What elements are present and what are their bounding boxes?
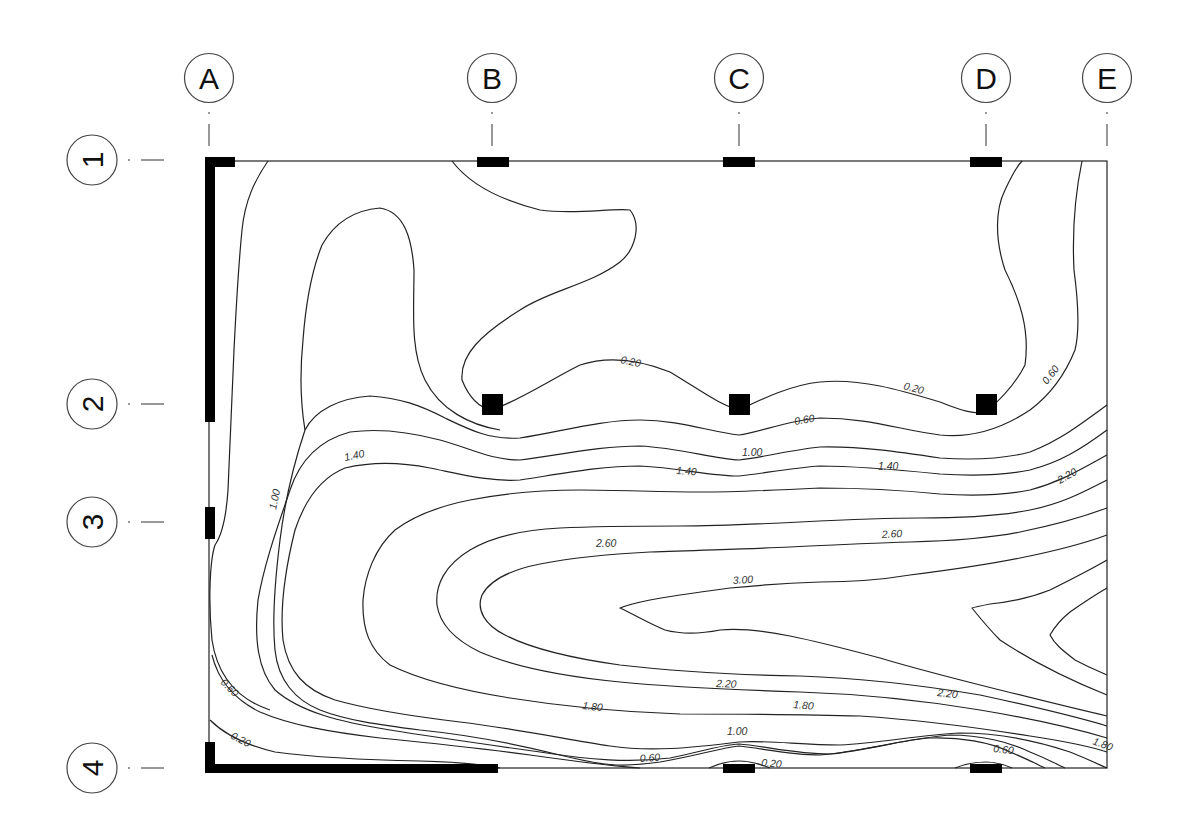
contour-label: 0.60 <box>1039 363 1061 387</box>
grid-label-3: 3 <box>76 514 109 531</box>
contour-label: 2.20 <box>715 677 737 690</box>
grid-column-bubble-b: B <box>468 54 517 147</box>
contour-label: 2.60 <box>880 527 902 540</box>
grid-row-bubble-4: 4 <box>67 743 164 793</box>
contour-0-20-bottom-left <box>210 720 500 768</box>
contour-left-loop <box>301 208 500 430</box>
column-c4 <box>723 764 755 773</box>
contour-0-60-bottom-left <box>212 655 640 768</box>
column-d1 <box>970 157 1002 167</box>
contour-label: 1.00 <box>266 488 282 511</box>
contour-label: 2.20 <box>1054 465 1079 486</box>
wall-a4-b4 <box>205 764 498 773</box>
grid-label-d: D <box>975 62 997 95</box>
grid-label-4: 4 <box>76 760 109 777</box>
column-a3 <box>205 507 215 539</box>
grid-column-bubble-a: A <box>185 54 234 147</box>
contour-labels: 0.20 0.20 0.60 0.60 1.00 1.40 1.40 1.40 … <box>219 353 1115 770</box>
grid-label-2: 2 <box>76 396 109 413</box>
grid-label-b: B <box>482 62 502 95</box>
contour-3-40-right <box>1050 588 1107 675</box>
column-c2 <box>729 394 750 415</box>
column-c1 <box>723 157 755 167</box>
wall-a1-a2 <box>205 157 215 422</box>
contour-lines <box>210 161 1107 768</box>
contour-label: 0.60 <box>793 412 815 427</box>
contour-2-20 <box>437 480 1107 738</box>
contour-label: 0.20 <box>761 756 783 770</box>
contour-3-00-right <box>972 560 1107 695</box>
contour-label: 1.40 <box>878 460 899 472</box>
contour-0-60-left-lobe <box>274 430 1045 768</box>
contour-label: 0.60 <box>639 751 660 764</box>
column-b2 <box>482 394 503 415</box>
contour-label: 3.00 <box>732 573 753 586</box>
grid-row-bubble-3: 3 <box>67 497 164 547</box>
contour-label: 0.60 <box>993 742 1015 756</box>
contour-0-60-top-right <box>305 161 1082 438</box>
contour-1-40 <box>282 430 1107 768</box>
contour-label: 2.60 <box>595 537 617 549</box>
column-b1 <box>477 157 509 167</box>
grid-row-bubble-1: 1 <box>67 135 164 185</box>
contour-label: 2.20 <box>936 686 959 700</box>
column-d4 <box>970 764 1002 773</box>
contour-label: 1.40 <box>676 464 697 477</box>
grid-label-e: E <box>1097 62 1117 95</box>
contour-0-20-top <box>452 161 1026 413</box>
contour-label: 1.80 <box>793 698 815 712</box>
column-d2 <box>976 394 997 415</box>
grid-label-a: A <box>199 62 219 95</box>
grid-column-bubble-d: D <box>962 54 1011 147</box>
slab-outline <box>209 161 1107 768</box>
contour-label: 1.00 <box>742 446 763 458</box>
grid-column-bubble-e: E <box>1083 54 1132 147</box>
grid-column-bubble-c: C <box>715 54 764 147</box>
contour-label: 1.80 <box>582 699 604 713</box>
contour-label: 1.00 <box>727 725 748 737</box>
contour-label: 1.40 <box>343 447 366 463</box>
grid-row-bubble-2: 2 <box>67 379 164 429</box>
contour-label: 0.20 <box>620 353 643 369</box>
grid-label-c: C <box>728 62 750 95</box>
contour-label: 0.20 <box>229 729 253 749</box>
contour-label: 0.20 <box>902 379 925 396</box>
contour-0-20-left <box>210 161 270 710</box>
contour-plan: A B C D E 1 2 3 <box>0 0 1185 828</box>
contour-3-00 <box>620 535 1107 716</box>
grid-label-1: 1 <box>76 152 109 169</box>
